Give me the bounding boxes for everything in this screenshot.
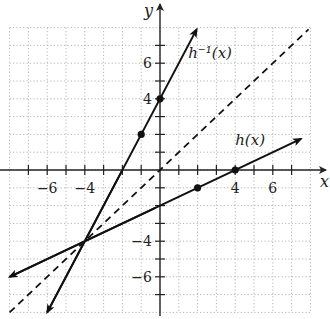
- data-point: [138, 131, 145, 138]
- x-tick-label: 4: [231, 180, 240, 196]
- series-group: [10, 29, 309, 312]
- y-tick-label: −6: [131, 269, 152, 285]
- line-identity-dashed: [10, 29, 309, 312]
- x-tick-label: 6: [268, 180, 277, 196]
- x-axis-label: x: [320, 172, 329, 191]
- y-tick-label: 4: [143, 91, 152, 107]
- line-h-inverse-label: h⁻¹(x): [188, 44, 232, 62]
- y-axis-label: y: [143, 1, 154, 20]
- y-tick-label: 6: [143, 55, 152, 71]
- x-tick-label: −4: [74, 180, 95, 196]
- function-graph: −6−44664−4−6xy h(x)h⁻¹(x): [0, 0, 330, 319]
- data-point: [232, 166, 239, 173]
- data-point: [194, 184, 201, 191]
- data-point: [156, 95, 163, 102]
- y-tick-label: −4: [131, 233, 152, 249]
- line-h-label: h(x): [235, 131, 265, 149]
- axes: −6−44664−4−6xy: [0, 1, 329, 316]
- x-tick-label: −6: [37, 180, 58, 196]
